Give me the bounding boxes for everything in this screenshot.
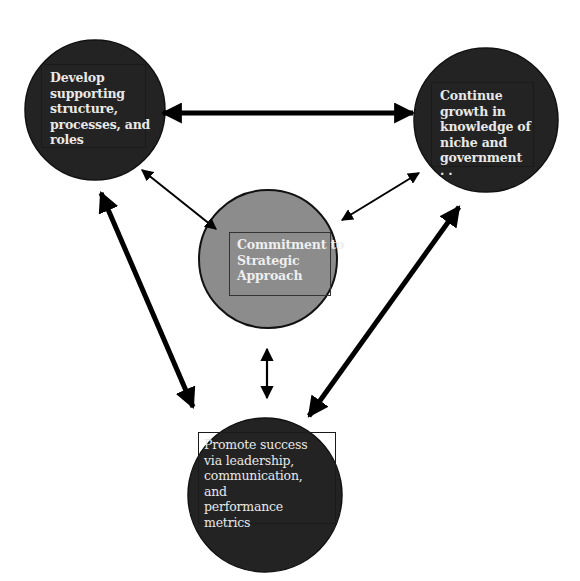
arrow-hub-left: [142, 170, 216, 229]
arrow-hub-right: [342, 173, 419, 220]
node-left-label: Develop supporting structure, processes,…: [50, 70, 150, 148]
node-bottom-label: Promote success via leadership, communic…: [204, 437, 307, 530]
node-right-label: Continue growth in knowledge of niche an…: [440, 88, 531, 181]
arrow-left-bottom: [101, 193, 193, 407]
node-hub-label: Commitment to Strategic Approach: [237, 237, 344, 284]
